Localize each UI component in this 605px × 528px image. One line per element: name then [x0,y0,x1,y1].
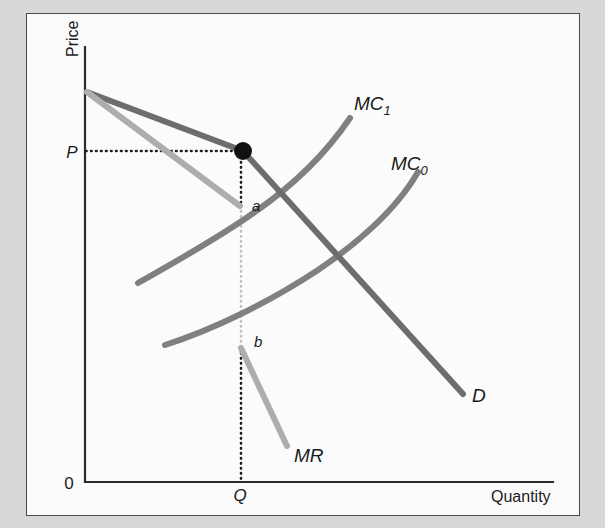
mc1-label-base: MC [354,93,384,114]
mc1-label-subscript: 1 [384,103,391,118]
point-labels-group: a b [252,197,262,350]
marginal-revenue-curve-group [87,92,287,446]
x-axis-label: Quantity [491,488,551,505]
figure-page: Price Quantity 0 P Q MC1 MC0 D MR a b [0,0,605,528]
point-b-label: b [254,333,262,350]
mr-curve-lower-segment [241,348,287,446]
mr-curve-upper-segment [87,92,240,206]
marginal-cost-curves-group [138,118,418,345]
mc0-label-base: MC [391,153,421,174]
mc1-curve-label: MC1 [354,93,391,118]
mr-curve-label: MR [294,445,324,466]
demand-curve-label: D [472,385,486,406]
axis-labels-group: Price Quantity 0 P Q [64,20,551,505]
quantity-tick-label: Q [233,486,246,505]
mc0-curve-label: MC0 [391,153,429,178]
guide-lines-group [86,151,241,481]
kinked-demand-diagram: Price Quantity 0 P Q MC1 MC0 D MR a b [0,0,605,528]
point-a-label: a [252,197,260,214]
kink-point-dot [234,142,252,160]
mc0-curve [165,172,418,345]
y-axis-label: Price [64,20,81,57]
axes-group [85,47,553,482]
price-tick-label: P [66,143,78,162]
origin-label: 0 [64,474,73,493]
mc0-label-subscript: 0 [421,163,429,178]
